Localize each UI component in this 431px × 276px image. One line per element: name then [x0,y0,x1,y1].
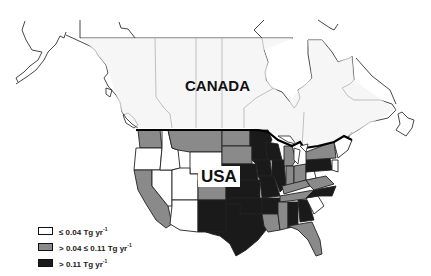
swatch-medium [38,243,53,251]
state-oregon [134,148,162,170]
state-florida [288,222,322,256]
label-usa: USA [198,166,240,187]
legend-label-high: > 0.11 Tg yr [59,259,103,268]
state-wisconsin [266,142,282,160]
state-north-dakota [222,130,250,146]
state-south-dakota [222,146,252,164]
newfoundland [396,112,414,136]
label-canada: CANADA [183,77,252,94]
state-arizona [170,200,198,232]
state-alabama [288,202,298,228]
legend-label-low: ≤ 0.04 Tg yr [59,227,103,236]
legend-exponent: -1 [127,242,131,248]
state-washington [138,130,162,148]
legend-item-medium: > 0.04 ≤ 0.11 Tg yr-1 [38,240,132,254]
state-mississippi [278,202,288,230]
state-new-jersey [332,160,338,172]
state-arkansas [262,198,280,214]
legend-item-low: ≤ 0.04 Tg yr-1 [38,224,132,238]
state-new-mexico [198,200,226,232]
legend-exponent: -1 [103,226,107,232]
legend-exponent: -1 [103,258,107,264]
legend-item-high: > 0.11 Tg yr-1 [38,256,132,270]
legend-label-medium: > 0.04 ≤ 0.11 Tg yr [59,243,127,252]
legend: ≤ 0.04 Tg yr-1 > 0.04 ≤ 0.11 Tg yr-1 > 0… [38,224,132,272]
swatch-high [38,259,53,267]
alaska-coast [16,21,66,84]
state-montana [168,130,222,152]
swatch-low [38,227,53,235]
